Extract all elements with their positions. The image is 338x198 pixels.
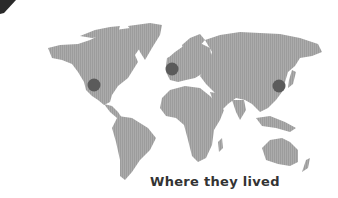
india	[232, 100, 246, 120]
south-america	[112, 116, 156, 180]
landmasses	[48, 23, 322, 180]
world-map	[0, 0, 338, 198]
marker-eastern-china[interactable]	[273, 80, 286, 93]
north-america	[48, 28, 142, 105]
central-america	[104, 104, 122, 118]
map-caption: Where they lived	[150, 174, 280, 189]
new-zealand	[302, 158, 310, 172]
australia	[262, 138, 298, 166]
marker-british-isles[interactable]	[166, 63, 179, 76]
madagascar	[218, 138, 223, 152]
japan	[288, 70, 296, 88]
marker-western-united-states[interactable]	[88, 79, 101, 92]
southeast-asia-islands	[256, 116, 296, 132]
